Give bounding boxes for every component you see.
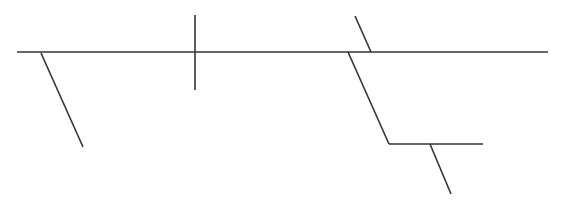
modifier-left-line [41, 53, 83, 147]
prepositional-slant-line [348, 52, 389, 144]
diagram-lines [0, 0, 568, 209]
sentence-diagram [0, 0, 568, 209]
object-modifier-line [430, 144, 451, 194]
complement-slant-line [355, 16, 371, 52]
